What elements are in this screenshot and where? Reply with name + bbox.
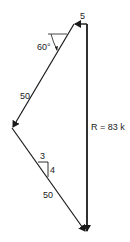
- angle-label: 60°: [37, 42, 51, 52]
- slope-triangle: [38, 162, 48, 177]
- slope-run-label: 3: [40, 151, 45, 161]
- force-50-upper-vector: [13, 24, 74, 127]
- force-50-lower-vector: [12, 128, 85, 231]
- resultant-label: R = 83 k: [91, 122, 125, 132]
- force-50-upper-label: 50: [20, 91, 30, 101]
- force-polygon-diagram: 5 60° 50 3 4 50 R = 83 k: [0, 0, 130, 242]
- slope-rise-label: 4: [50, 165, 55, 175]
- force-50-lower-label: 50: [43, 190, 53, 200]
- force-5-label: 5: [80, 11, 85, 21]
